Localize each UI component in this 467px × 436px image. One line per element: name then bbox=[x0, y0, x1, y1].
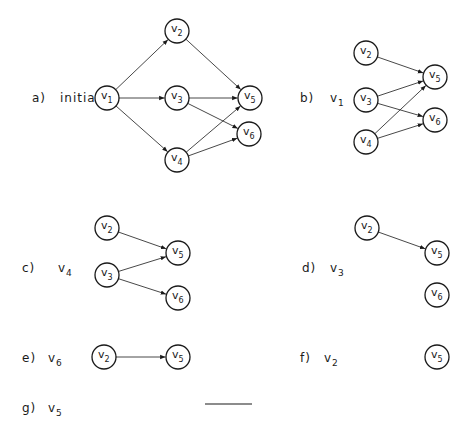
node-v5: v5 bbox=[238, 86, 262, 110]
edge-v2-v5 bbox=[118, 232, 166, 249]
node-v2: v2 bbox=[95, 216, 119, 240]
edge-v1-v2 bbox=[116, 40, 168, 90]
node-v4: v4 bbox=[165, 148, 189, 172]
removed-vertex-caption: initial bbox=[60, 91, 100, 105]
node-v4: v4 bbox=[354, 130, 378, 154]
removed-vertex-caption: v4 bbox=[58, 261, 73, 278]
panel-d: d)v3v2v5v6 bbox=[302, 216, 449, 307]
node-v3: v3 bbox=[354, 88, 378, 112]
edge-v3-v6 bbox=[188, 103, 238, 128]
node-v6: v6 bbox=[237, 122, 261, 146]
node-v6: v6 bbox=[425, 283, 449, 307]
node-v1: v1 bbox=[95, 86, 119, 110]
node-v5: v5 bbox=[425, 241, 449, 265]
panel-label: c) bbox=[22, 261, 35, 275]
node-v2: v2 bbox=[355, 216, 379, 240]
node-v6: v6 bbox=[166, 286, 190, 310]
edge-v4-v6 bbox=[377, 124, 423, 139]
edge-v4-v6 bbox=[188, 138, 237, 156]
node-v2: v2 bbox=[354, 41, 378, 65]
node-v2: v2 bbox=[165, 19, 189, 43]
panel-f: f)v2v5 bbox=[300, 345, 449, 369]
panel-label: g) bbox=[22, 401, 36, 415]
edge-v2-v5 bbox=[378, 232, 425, 249]
node-v3: v3 bbox=[95, 263, 119, 287]
panel-label: b) bbox=[300, 91, 314, 105]
edge-v1-v4 bbox=[116, 106, 168, 152]
removed-vertex-caption: v1 bbox=[330, 91, 345, 108]
panel-label: d) bbox=[302, 261, 316, 275]
removed-vertex-caption: v2 bbox=[324, 351, 339, 368]
edge-v2-v5 bbox=[377, 57, 423, 73]
node-v5: v5 bbox=[166, 345, 190, 369]
node-v5: v5 bbox=[423, 65, 447, 89]
panel-c: c)v4v2v3v5v6 bbox=[22, 216, 190, 310]
edge-v4-v5 bbox=[375, 86, 426, 134]
edge-v3-v6 bbox=[118, 279, 166, 294]
panel-e: e)v6v2v5 bbox=[22, 345, 190, 369]
panel-a: a)initialv1v2v3v4v5v6 bbox=[32, 19, 262, 172]
panel-label: a) bbox=[32, 91, 46, 105]
edge-v3-v5 bbox=[377, 81, 423, 96]
node-v5: v5 bbox=[425, 345, 449, 369]
removed-vertex-caption: v5 bbox=[48, 401, 63, 418]
panel-label: f) bbox=[300, 351, 311, 365]
edge-v3-v5 bbox=[118, 257, 166, 272]
node-v3: v3 bbox=[165, 86, 189, 110]
removed-vertex-caption: v6 bbox=[48, 351, 63, 368]
graph-elimination-diagram: a)initialv1v2v3v4v5v6b)v1v2v3v4v5v6c)v4v… bbox=[0, 0, 467, 436]
node-v2: v2 bbox=[92, 345, 116, 369]
node-v5: v5 bbox=[166, 241, 190, 265]
panel-g: g)v5 bbox=[22, 401, 252, 418]
edge-v2-v5 bbox=[186, 39, 241, 89]
edge-v4-v5 bbox=[186, 106, 240, 152]
panel-b: b)v1v2v3v4v5v6 bbox=[300, 41, 447, 154]
panel-label: e) bbox=[22, 351, 36, 365]
removed-vertex-caption: v3 bbox=[330, 261, 345, 278]
node-v6: v6 bbox=[423, 108, 447, 132]
